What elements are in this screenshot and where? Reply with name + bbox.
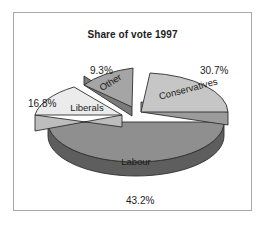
pie-slice-label-liberals: Liberals: [70, 102, 104, 113]
pie-slice-labour[interactable]: Labour: [48, 122, 224, 176]
pie-value-label-other: 9.3%: [90, 65, 113, 76]
pie-value-label-conservatives: 30.7%: [200, 65, 228, 76]
pie-slice-label-labour: Labour: [121, 156, 151, 167]
pie-value-label-liberals: 16.8%: [28, 98, 56, 109]
chart-frame: Share of vote 1997 Labour Conservatives …: [13, 12, 252, 211]
pie-value-label-labour: 43.2%: [126, 195, 154, 206]
pie-slice-conservatives[interactable]: Conservatives: [141, 73, 228, 125]
pie-chart-graphic: Labour Conservatives Other Liberals: [14, 13, 253, 212]
